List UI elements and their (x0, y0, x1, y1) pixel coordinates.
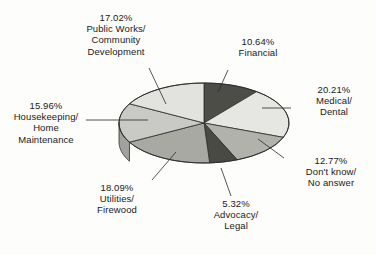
slice-label-dont-know: 12.77% Don't know/ No answer (288, 155, 374, 189)
slice-label-advocacy-legal: 5.32% Advocacy/ Legal (194, 198, 278, 232)
slice-label-financial: 10.64% Financial (214, 36, 302, 58)
leader-line-advocacy-legal (221, 168, 231, 196)
pie-3d-group (119, 83, 289, 163)
slice-label-public-works: 17.02% Public Works/ Community Developme… (58, 12, 174, 57)
pie-chart-figure: 17.02% Public Works/ Community Developme… (0, 0, 376, 255)
slice-label-medical-dental: 20.21% Medical/ Dental (294, 84, 374, 118)
slice-label-utilities-firewood: 18.09% Utilities/ Firewood (74, 182, 160, 216)
slice-label-housekeeping: 15.96% Housekeeping/ Home Maintenance (2, 100, 90, 145)
